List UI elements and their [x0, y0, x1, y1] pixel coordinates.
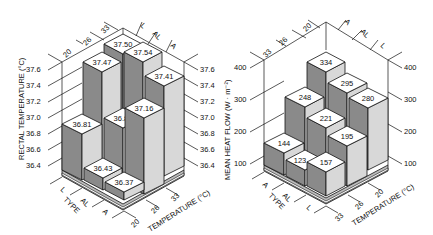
left-ytick-36.4-r: 36.4: [200, 161, 215, 170]
left-y-axis-label: RECTAL TEMPERATURE (°C): [17, 57, 26, 160]
left-type-axis-label: TYPE: [62, 195, 82, 215]
bar-value-AL-33-heat: 123: [294, 156, 307, 165]
right-ytick-200-l: 200: [234, 127, 247, 136]
right-front-temp-33: 33: [333, 211, 345, 223]
right-back-type-al: AL: [359, 27, 372, 40]
bar-value-L-33: 37.50: [114, 40, 133, 49]
left-ytick-37.2-r: 37.2: [200, 97, 215, 106]
right-ytick-400-l: 400: [234, 63, 247, 72]
bar-value-L-26-heat: 195: [341, 132, 354, 141]
right-y-ticks-right: [388, 60, 402, 164]
left-ytick-37.4-l: 37.4: [26, 81, 41, 90]
bar-value-A-33: 37.41: [155, 72, 174, 81]
right-ytick-400-r: 400: [404, 63, 417, 72]
bar-value-AL-20: 36.43: [94, 164, 113, 173]
left-front-type-a: A: [101, 207, 111, 217]
right-front-type-a: A: [261, 180, 271, 190]
bar-value-AL-33: 37.54: [134, 48, 153, 57]
left-ytick-36.6-l: 36.6: [26, 145, 41, 154]
bar-value-L-26: 37.47: [93, 58, 112, 67]
right-front-temp-26: 26: [353, 199, 365, 211]
left-ytick-36.6-r: 36.6: [200, 145, 215, 154]
right-ytick-100-l: 100: [234, 159, 247, 168]
left-front-temp-20: 20: [129, 217, 141, 229]
right-front-type-l: L: [305, 203, 314, 212]
left-front-temp-33: 33: [169, 191, 181, 203]
left-y-ticks-right: [184, 62, 198, 166]
left-ytick-36.4-l: 36.4: [26, 161, 41, 170]
left-ytick-37.6-r: 37.6: [200, 65, 215, 74]
left-back-type-al: AL: [151, 29, 164, 42]
right-ytick-100-r: 100: [404, 159, 417, 168]
bar-value-AL-26-heat: 221: [320, 114, 333, 123]
right-ytick-300-l: 300: [234, 95, 247, 104]
left-back-temp-20: 20: [61, 47, 73, 59]
left-ytick-37.6-l: 37.6: [26, 65, 41, 74]
right-ytick-200-r: 200: [404, 127, 417, 136]
left-chart: 20 26 33 L AL A 37.6 37.4 37.2 37.0 36.8…: [17, 21, 215, 234]
left-back-type-a: A: [169, 41, 179, 51]
left-ytick-37.0-r: 37.0: [200, 113, 215, 122]
bar-value-L-20-heat: 280: [362, 94, 375, 103]
bar-value-A-20: 36.37: [115, 178, 134, 187]
right-front-temp-20: 20: [373, 187, 385, 199]
right-chart: 33 26 20 A AL L 400 300 200 100 400 300 …: [223, 17, 417, 228]
left-front-temp-26: 26: [149, 203, 161, 215]
bar-L-33-heat: 157: [307, 152, 345, 196]
right-back-type-a: A: [343, 17, 353, 27]
left-ytick-36.8-r: 36.8: [200, 129, 215, 138]
left-ytick-37.0-l: 37.0: [26, 113, 41, 122]
bar-value-A-33-heat: 144: [278, 139, 291, 148]
left-ytick-36.8-l: 36.8: [26, 129, 41, 138]
right-ytick-300-r: 300: [404, 95, 417, 104]
bar-value-L-20: 36.81: [73, 120, 92, 129]
left-ytick-37.4-r: 37.4: [200, 81, 215, 90]
right-back-temp-33: 33: [261, 47, 273, 59]
bar-value-A-20-heat: 334: [320, 58, 333, 67]
left-ytick-37.2-l: 37.2: [26, 97, 41, 106]
bar-value-A-26-heat: 248: [299, 93, 312, 102]
right-y-axis-label: MEAN HEAT FLOW (W · m⁻²): [223, 79, 232, 180]
bar-value-AL-20-heat: 295: [341, 79, 354, 88]
right-back-type-l: L: [379, 41, 388, 50]
chart-canvas: 20 26 33 L AL A 37.6 37.4 37.2 37.0 36.8…: [0, 0, 433, 235]
bar-value-A-26: 37.16: [135, 104, 154, 113]
left-back-type-l: L: [139, 21, 148, 30]
left-front-type-l: L: [59, 185, 68, 194]
right-back-temp-20: 20: [301, 21, 313, 33]
bar-value-L-33-heat: 157: [320, 158, 333, 167]
